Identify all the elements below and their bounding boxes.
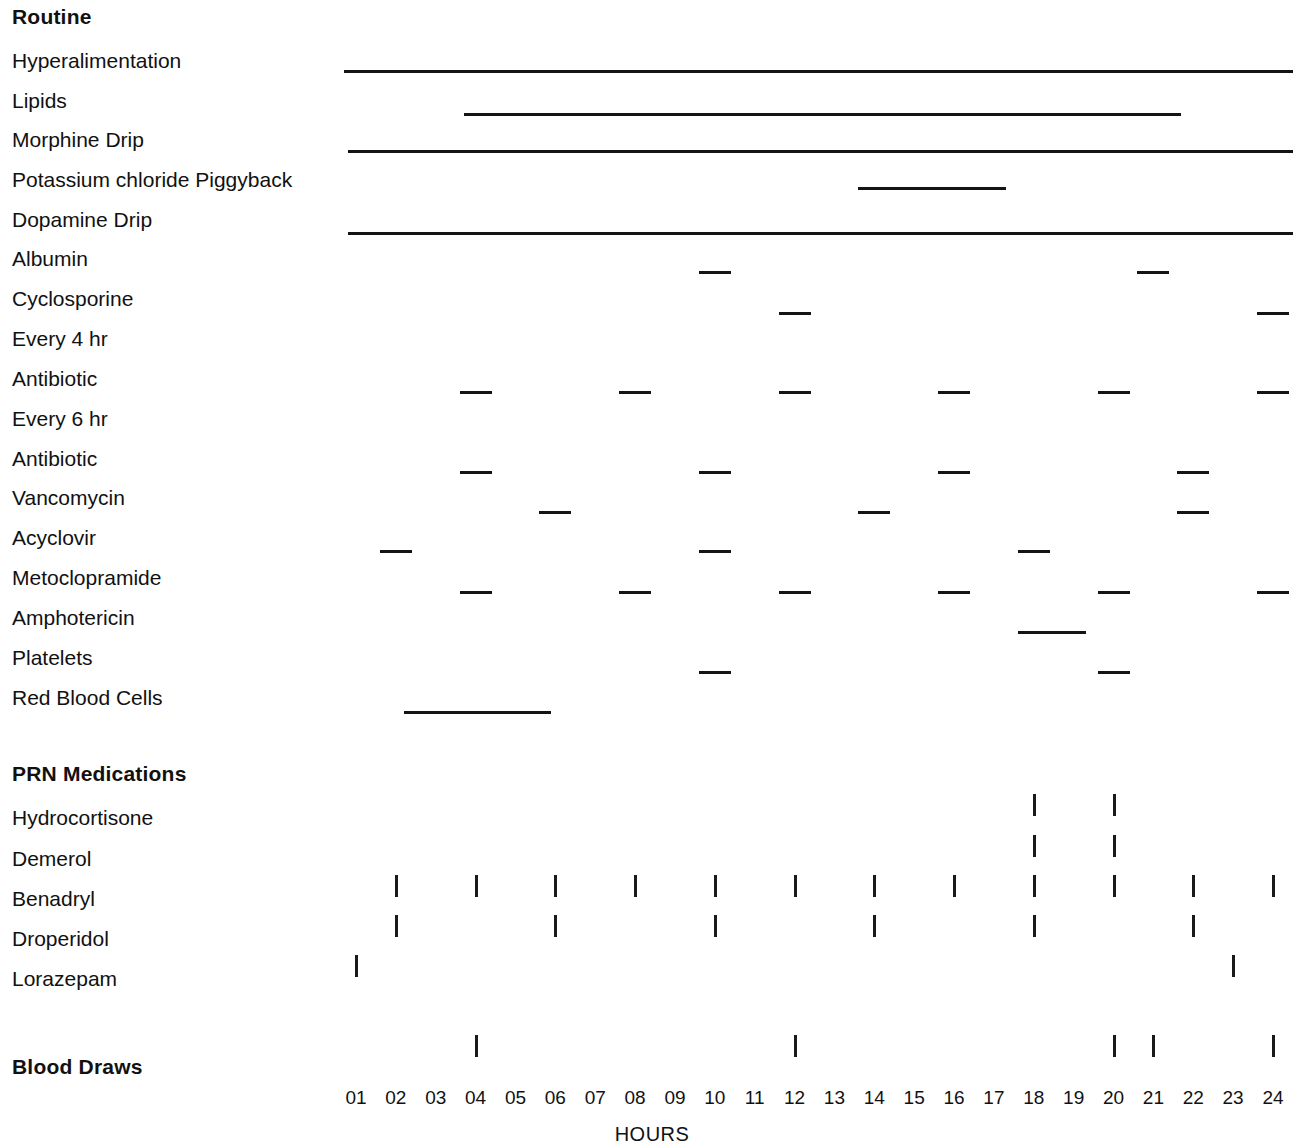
hour-axis-label-05: 05 xyxy=(498,1088,532,1107)
row-label-antibiotic-q6h: Antibiotic xyxy=(12,448,97,469)
row-label-red-blood-cells: Red Blood Cells xyxy=(12,687,163,708)
dose-tick-benadryl-hour-2 xyxy=(395,875,398,897)
dose-tick-droperidol-hour-2 xyxy=(395,915,398,937)
row-label-morphine-drip: Morphine Drip xyxy=(12,129,144,150)
hour-axis-label-15: 15 xyxy=(897,1088,931,1107)
dose-tick-droperidol-hour-14 xyxy=(873,915,876,937)
dose-tick-benadryl-hour-24 xyxy=(1272,875,1275,897)
hour-axis-label-19: 19 xyxy=(1057,1088,1091,1107)
dose-tick-benadryl-hour-6 xyxy=(554,875,557,897)
hour-axis-label-22: 22 xyxy=(1176,1088,1210,1107)
dose-dash-antibiotic-hour-16 xyxy=(938,471,970,474)
dose-tick-lorazepam-hour-1 xyxy=(355,955,358,977)
row-label-platelets: Platelets xyxy=(12,647,93,668)
hour-axis-label-08: 08 xyxy=(618,1088,652,1107)
dose-dash-vancomycin-hour-22 xyxy=(1177,511,1209,514)
dose-tick-benadryl-hour-4 xyxy=(475,875,478,897)
dose-dash-cyclosporine-hour-12 xyxy=(779,312,811,315)
dose-tick-benadryl-hour-12 xyxy=(794,875,797,897)
row-label-demerol: Demerol xyxy=(12,848,91,869)
dose-tick-blood-draws-hour-4 xyxy=(475,1035,478,1057)
infusion-bar-potassium-chloride-piggyback-0 xyxy=(858,187,1006,190)
row-label-lipids: Lipids xyxy=(12,90,67,111)
dose-dash-antibiotic-hour-4 xyxy=(460,391,492,394)
row-label-acyclovir: Acyclovir xyxy=(12,527,96,548)
hour-axis-label-10: 10 xyxy=(698,1088,732,1107)
hour-axis-label-14: 14 xyxy=(857,1088,891,1107)
row-label-benadryl: Benadryl xyxy=(12,888,95,909)
row-label-lorazepam: Lorazepam xyxy=(12,968,117,989)
dose-tick-hydrocortisone-hour-20 xyxy=(1113,794,1116,816)
infusion-bar-hyperalimentation-0 xyxy=(344,70,1293,73)
hour-axis-label-21: 21 xyxy=(1136,1088,1170,1107)
medication-flowsheet: Routine Hyperalimentation Lipids Morphin… xyxy=(0,0,1304,1147)
row-label-hyperalimentation: Hyperalimentation xyxy=(12,50,181,71)
row-label-dopamine-drip: Dopamine Drip xyxy=(12,209,152,230)
subsection-heading-every-6-hr: Every 6 hr xyxy=(12,408,108,429)
infusion-bar-morphine-drip-0 xyxy=(348,150,1293,153)
dose-tick-droperidol-hour-6 xyxy=(554,915,557,937)
hour-axis-label-11: 11 xyxy=(738,1088,772,1107)
hour-axis-label-03: 03 xyxy=(419,1088,453,1107)
dose-dash-acyclovir-hour-10 xyxy=(699,550,731,553)
dose-tick-benadryl-hour-20 xyxy=(1113,875,1116,897)
row-label-hydrocortisone: Hydrocortisone xyxy=(12,807,153,828)
dose-dash-antibiotic-hour-10 xyxy=(699,471,731,474)
section-heading-routine: Routine xyxy=(12,6,92,27)
row-label-cyclosporine: Cyclosporine xyxy=(12,288,133,309)
dose-dash-metoclopramide-hour-8 xyxy=(619,591,651,594)
dose-tick-benadryl-hour-16 xyxy=(953,875,956,897)
dose-dash-vancomycin-hour-6 xyxy=(539,511,571,514)
infusion-bar-red-blood-cells-0 xyxy=(404,711,552,714)
dose-dash-platelets-hour-20 xyxy=(1098,671,1130,674)
dose-tick-benadryl-hour-22 xyxy=(1192,875,1195,897)
dose-tick-hydrocortisone-hour-18 xyxy=(1033,794,1036,816)
dose-dash-antibiotic-hour-24 xyxy=(1257,391,1289,394)
dose-dash-albumin-hour-21 xyxy=(1137,271,1169,274)
hour-axis-label-04: 04 xyxy=(459,1088,493,1107)
hour-axis-label-17: 17 xyxy=(977,1088,1011,1107)
dose-tick-blood-draws-hour-12 xyxy=(794,1035,797,1057)
hour-axis-label-01: 01 xyxy=(339,1088,373,1107)
dose-dash-acyclovir-hour-18 xyxy=(1018,550,1050,553)
dose-tick-lorazepam-hour-23 xyxy=(1232,955,1235,977)
dose-dash-vancomycin-hour-14 xyxy=(858,511,890,514)
dose-tick-benadryl-hour-18 xyxy=(1033,875,1036,897)
dose-dash-acyclovir-hour-2 xyxy=(380,550,412,553)
hour-axis-label-07: 07 xyxy=(578,1088,612,1107)
hour-axis-label-24: 24 xyxy=(1256,1088,1290,1107)
row-label-amphotericin: Amphotericin xyxy=(12,607,135,628)
dose-tick-droperidol-hour-18 xyxy=(1033,915,1036,937)
dose-dash-metoclopramide-hour-16 xyxy=(938,591,970,594)
section-heading-prn-medications: PRN Medications xyxy=(12,763,187,784)
dose-dash-antibiotic-hour-20 xyxy=(1098,391,1130,394)
dose-tick-blood-draws-hour-24 xyxy=(1272,1035,1275,1057)
dose-dash-antibiotic-hour-22 xyxy=(1177,471,1209,474)
dose-dash-antibiotic-hour-16 xyxy=(938,391,970,394)
dose-tick-benadryl-hour-10 xyxy=(714,875,717,897)
infusion-bar-lipids-0 xyxy=(464,113,1182,116)
dose-dash-antibiotic-hour-4 xyxy=(460,471,492,474)
dose-tick-benadryl-hour-14 xyxy=(873,875,876,897)
row-label-antibiotic-q4h: Antibiotic xyxy=(12,368,97,389)
dose-dash-metoclopramide-hour-24 xyxy=(1257,591,1289,594)
dose-tick-demerol-hour-20 xyxy=(1113,835,1116,857)
subsection-heading-every-4-hr: Every 4 hr xyxy=(12,328,108,349)
dose-dash-albumin-hour-10 xyxy=(699,271,731,274)
dose-dash-cyclosporine-hour-24 xyxy=(1257,312,1289,315)
row-label-droperidol: Droperidol xyxy=(12,928,109,949)
dose-tick-droperidol-hour-10 xyxy=(714,915,717,937)
hour-axis-label-12: 12 xyxy=(778,1088,812,1107)
hour-axis-label-09: 09 xyxy=(658,1088,692,1107)
dose-dash-antibiotic-hour-12 xyxy=(779,391,811,394)
row-label-albumin: Albumin xyxy=(12,248,88,269)
axis-title-hours: HOURS xyxy=(0,1124,1304,1144)
dose-tick-blood-draws-hour-20 xyxy=(1113,1035,1116,1057)
row-label-metoclopramide: Metoclopramide xyxy=(12,567,161,588)
hour-axis-label-23: 23 xyxy=(1216,1088,1250,1107)
dose-tick-demerol-hour-18 xyxy=(1033,835,1036,857)
hour-axis-label-13: 13 xyxy=(817,1088,851,1107)
row-label-potassium-chloride-piggyback: Potassium chloride Piggyback xyxy=(12,169,292,190)
dose-tick-benadryl-hour-8 xyxy=(634,875,637,897)
hour-axis-label-18: 18 xyxy=(1017,1088,1051,1107)
